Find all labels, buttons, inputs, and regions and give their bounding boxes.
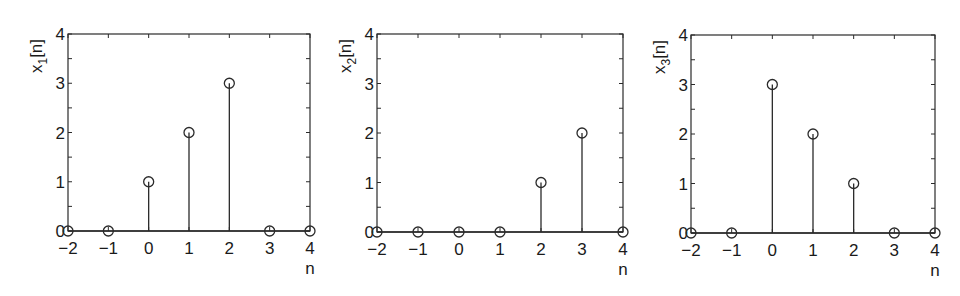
y-tick-label: 2 — [365, 124, 374, 143]
x-tick-label: −2 — [367, 240, 386, 259]
x-tick-label: 4 — [305, 239, 314, 258]
y-tick-label: 2 — [679, 125, 688, 144]
x-tick-label: −2 — [58, 239, 77, 258]
y-tick-label: 4 — [679, 26, 688, 45]
x-axis-label: n — [305, 259, 314, 278]
x-tick-label: 1 — [808, 241, 817, 260]
y-axis-label: x2[n] — [336, 39, 359, 73]
y-tick-label: 4 — [56, 25, 65, 44]
x-tick-label: 4 — [618, 240, 627, 259]
x-tick-label: −2 — [681, 241, 700, 260]
y-tick-label: 1 — [56, 173, 65, 192]
y-axis-label: x1[n] — [27, 39, 50, 73]
x-tick-label: −1 — [408, 240, 427, 259]
y-tick-label: 3 — [56, 74, 65, 93]
x-tick-label: 0 — [454, 240, 463, 259]
y-axis-label: x3[n] — [650, 40, 673, 74]
x-tick-label: 2 — [536, 240, 545, 259]
x-tick-label: 4 — [930, 241, 939, 260]
figure-canvas: 01234−2−101234nx1[n] 01234−2−101234nx2[n… — [0, 0, 960, 296]
x-tick-label: 1 — [495, 240, 504, 259]
stem-plot-figure: 01234−2−101234nx1[n] 01234−2−101234nx2[n… — [0, 0, 960, 296]
plot-x2: 01234−2−101234nx2[n] — [336, 25, 628, 279]
x-tick-label: 2 — [225, 239, 234, 258]
x-tick-label: 2 — [849, 241, 858, 260]
x-tick-label: 0 — [768, 241, 777, 260]
y-tick-label: 3 — [365, 75, 374, 94]
x-tick-label: 1 — [184, 239, 193, 258]
x-axis-label: n — [618, 260, 627, 279]
y-tick-label: 3 — [679, 76, 688, 95]
plot-x3: 01234−2−101234nx3[n] — [650, 26, 940, 280]
y-tick-label: 4 — [365, 25, 374, 44]
x-tick-label: 0 — [144, 239, 153, 258]
y-tick-label: 2 — [56, 124, 65, 143]
x-tick-label: 3 — [890, 241, 899, 260]
axes-frame — [377, 34, 623, 232]
x-tick-label: −1 — [99, 239, 118, 258]
x-tick-label: 3 — [577, 240, 586, 259]
plot-x1: 01234−2−101234nx1[n] — [27, 25, 315, 278]
x-axis-label: n — [930, 261, 939, 280]
y-tick-label: 1 — [679, 175, 688, 194]
x-tick-label: −1 — [722, 241, 741, 260]
y-tick-label: 1 — [365, 174, 374, 193]
x-tick-label: 3 — [265, 239, 274, 258]
